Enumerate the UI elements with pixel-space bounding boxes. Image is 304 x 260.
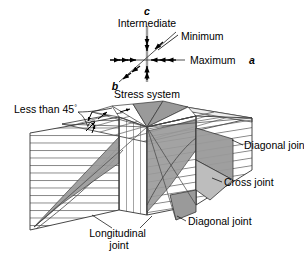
stress-system-caption: Stress system <box>114 88 180 100</box>
left-face <box>30 117 119 230</box>
minimum-label: Minimum <box>181 30 224 42</box>
cross-joint-label: Cross joint <box>224 176 274 188</box>
diagonal-joint-lower-label: Diagonal joint <box>188 215 252 227</box>
geology-figure: c Intermediate Minimum Maximum a b Stres… <box>0 0 304 260</box>
maximum-label: Maximum <box>190 54 236 66</box>
block-diagram: Less than 45° Diagonal joint Cross joint… <box>14 35 304 251</box>
longitudinal-joint-face <box>119 117 147 215</box>
stress-axis-c-label: c <box>144 5 150 17</box>
diagonal-joint-upper-label: Diagonal joint <box>244 139 304 151</box>
stress-system-diagram: c Intermediate Minimum Maximum a b Stres… <box>110 5 255 100</box>
longitudinal-joint-label: Longitudinal joint <box>89 227 149 251</box>
maximum-axis-label: a <box>249 54 255 66</box>
intermediate-label: Intermediate <box>118 17 177 29</box>
less-than-45-label: Less than 45° <box>14 103 77 115</box>
minimum-leader-line <box>158 35 178 50</box>
